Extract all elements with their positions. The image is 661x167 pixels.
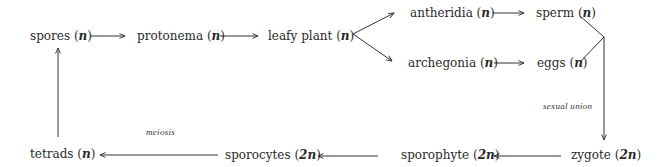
node-name: sporocytes (225, 148, 291, 162)
node-name: eggs (537, 56, 566, 70)
node-name: leafy plant (268, 29, 332, 43)
node-name: zygote (571, 148, 611, 162)
node-name: sperm (536, 6, 574, 20)
node-name: archegonia (408, 56, 476, 70)
node-antheridia: antheridia (n) (410, 6, 495, 20)
ploidy: n (212, 29, 221, 43)
node-leafy-plant: leafy plant (n) (268, 29, 354, 43)
ploidy: n (341, 29, 350, 43)
node-archegonia: archegonia (n) (408, 56, 498, 70)
node-sperm: sperm (n) (536, 6, 596, 20)
moss-life-cycle-diagram: spores (n) protonema (n) leafy plant (n)… (0, 0, 661, 167)
node-name: tetrads (30, 147, 73, 161)
ploidy: n (481, 6, 490, 20)
node-name: antheridia (410, 6, 473, 20)
edge-label-meiosis: meiosis (146, 127, 175, 137)
ploidy: 2n (478, 148, 495, 162)
node-tetrads: tetrads (n) (30, 147, 95, 161)
node-protonema: protonema (n) (137, 29, 225, 43)
node-name: spores (30, 29, 70, 43)
ploidy: n (583, 6, 592, 20)
ploidy: n (79, 29, 88, 43)
node-eggs: eggs (n) (537, 56, 588, 70)
node-name: protonema (137, 29, 203, 43)
ploidy: n (485, 56, 494, 70)
edge-label-sexual-union: sexual union (543, 101, 592, 111)
node-zygote: zygote (2n) (571, 148, 641, 162)
arrow-leafy-plant-to-antheridia (353, 13, 394, 34)
node-sporocytes: sporocytes (2n) (225, 148, 321, 162)
connector-layer (0, 0, 661, 167)
ploidy: n (574, 56, 583, 70)
ploidy: 2n (619, 148, 636, 162)
node-spores: spores (n) (30, 29, 92, 43)
ploidy: n (82, 147, 91, 161)
node-sporophyte: sporophyte (2n) (401, 148, 499, 162)
ploidy: 2n (299, 148, 316, 162)
node-name: sporophyte (401, 148, 469, 162)
arrow-leafy-plant-to-archegonia (353, 34, 392, 61)
